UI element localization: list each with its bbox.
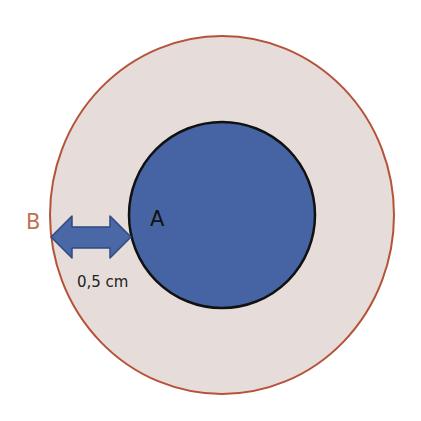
label-a: A [150, 207, 165, 231]
distance-label: 0,5 cm [77, 273, 128, 291]
diagram-canvas: B A 0,5 cm [0, 0, 421, 421]
label-b: B [26, 210, 40, 234]
